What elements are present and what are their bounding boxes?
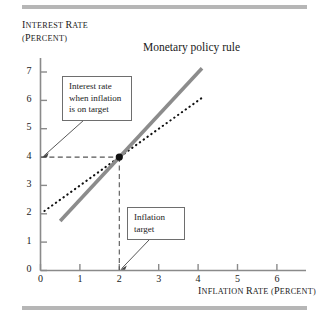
policy-rule-figure: INTEREST RATE (PERCENT) INFLATION RATE (… (0, 0, 325, 318)
y-tick-label-3: 3 (22, 178, 36, 189)
callout-interest-rate-line1: Interest rate (69, 81, 126, 93)
x-tick-label-3: 3 (152, 273, 166, 284)
x-tick-label-5: 5 (231, 273, 245, 284)
y-tick-label-4: 4 (22, 150, 36, 161)
equilibrium-point-marker (116, 154, 123, 161)
callout-inflation-target-line1: Inflation (134, 212, 179, 224)
y-tick-label-7: 7 (22, 65, 36, 76)
x-tick-label-6: 6 (270, 273, 284, 284)
y-axis-title-line1: INTEREST RATE (22, 19, 88, 30)
callout-inflation-target-line2: target (134, 224, 179, 236)
x-tick-label-2: 2 (112, 273, 126, 284)
callout-interest-rate-line3: is on target (69, 104, 126, 116)
callout-interest-rate-leader (44, 120, 85, 156)
callout-interest-rate: Interest rate when inflation is on targe… (62, 76, 132, 121)
x-tick-label-1: 1 (73, 273, 87, 284)
y-tick-label-2: 2 (22, 206, 36, 217)
x-tick-label-4: 4 (191, 273, 205, 284)
callout-inflation-target: Inflation target (127, 207, 185, 240)
x-tick-label-0: 0 (34, 273, 48, 284)
callout-interest-rate-line2: when inflation (69, 93, 126, 105)
y-tick-label-1: 1 (22, 235, 36, 246)
y-tick-label-5: 5 (22, 121, 36, 132)
callout-inflation-target-leader (122, 240, 149, 269)
y-tick-label-6: 6 (22, 93, 36, 104)
monetary-policy-rule-label: Monetary policy rule (143, 41, 240, 53)
x-axis-title: INFLATION RATE (PERCENT) (198, 285, 316, 296)
y-axis-ticks (41, 72, 48, 271)
y-axis-title-line2: (PERCENT) (22, 32, 67, 43)
x-axis-ticks (41, 264, 277, 271)
